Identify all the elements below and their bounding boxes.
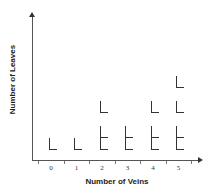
leaf-symbol-icon	[151, 138, 160, 150]
leaf-symbol-icon	[176, 76, 185, 88]
x-tick-mark	[166, 161, 167, 164]
x-tick-label: 3	[121, 164, 135, 172]
leaf-symbol-icon	[176, 101, 185, 113]
pictograph-column-3	[123, 113, 137, 150]
leaf-symbol-icon	[49, 138, 58, 150]
y-axis-line	[32, 16, 33, 160]
pictograph-column-1	[72, 138, 86, 150]
l-glyph-icon	[176, 101, 184, 113]
x-tick-label: 4	[146, 164, 160, 172]
l-glyph-icon	[125, 126, 133, 138]
y-axis-arrow-icon	[29, 12, 35, 17]
l-glyph-icon	[100, 126, 108, 138]
pictograph-column-5	[174, 63, 188, 150]
leaf-symbol-icon	[100, 126, 109, 138]
pictograph-column-4	[148, 88, 162, 150]
x-tick-label: 5	[172, 164, 186, 172]
l-glyph-icon	[74, 138, 82, 150]
x-tick-mark	[115, 161, 116, 164]
leaf-symbol-icon	[125, 126, 134, 138]
x-tick-mark	[64, 161, 65, 164]
leaf-symbol-icon	[176, 126, 185, 138]
pictograph-column-0	[46, 138, 60, 150]
leaf-symbol-icon	[125, 138, 134, 150]
l-glyph-icon	[49, 138, 57, 150]
x-tick-mark	[38, 161, 39, 164]
l-glyph-icon	[176, 126, 184, 138]
x-axis-arrow-icon	[198, 157, 203, 163]
l-glyph-icon	[176, 138, 184, 150]
l-glyph-icon	[100, 138, 108, 150]
x-tick-mark	[140, 161, 141, 164]
x-tick-label: 2	[95, 164, 109, 172]
l-glyph-icon	[151, 126, 159, 138]
leaf-symbol-icon	[100, 138, 109, 150]
x-tick-label: 0	[44, 164, 58, 172]
x-tick-mark	[191, 161, 192, 164]
leaf-symbol-icon	[176, 138, 185, 150]
leaf-symbol-icon	[74, 138, 83, 150]
l-glyph-icon	[125, 138, 133, 150]
pictograph-column-2	[97, 88, 111, 150]
vein-count-pictograph: Number of Leaves Number of Veins 012345	[0, 0, 213, 195]
x-axis-title: Number of Veins	[52, 177, 182, 186]
l-glyph-icon	[151, 101, 159, 113]
leaf-symbol-icon	[100, 101, 109, 113]
leaf-symbol-icon	[151, 101, 160, 113]
x-tick-label: 1	[70, 164, 84, 172]
x-tick-mark	[89, 161, 90, 164]
leaf-symbol-icon	[151, 126, 160, 138]
l-glyph-icon	[100, 101, 108, 113]
l-glyph-icon	[151, 138, 159, 150]
l-glyph-icon	[176, 76, 184, 88]
y-axis-title: Number of Leaves	[8, 35, 17, 125]
